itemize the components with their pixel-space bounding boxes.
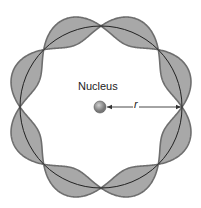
nucleus-label: Nucleus xyxy=(78,80,118,92)
arrowhead-icon xyxy=(107,105,112,109)
nucleus xyxy=(94,101,106,113)
standing-wave-diagram: Nucleus r xyxy=(0,0,201,208)
radius-label: r xyxy=(133,99,139,110)
orbit-wave-graphic xyxy=(0,0,201,208)
